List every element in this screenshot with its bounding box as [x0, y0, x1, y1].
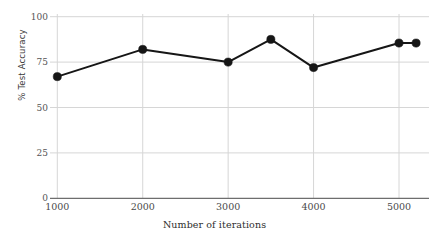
x-tick-label-5000: 5000	[369, 201, 429, 212]
line-chart: 0255075100 10002000300040005000 % Test A…	[0, 0, 429, 236]
horizontal-gridlines	[50, 17, 429, 153]
series-line	[57, 39, 416, 76]
y-tick-label: 25	[14, 148, 48, 158]
y-axis-title: % Test Accuracy	[17, 0, 27, 135]
data-point	[267, 35, 275, 43]
x-tick-label-1000: 1000	[27, 201, 87, 212]
plot-area: 0255075100 10002000300040005000	[0, 0, 429, 236]
data-point	[53, 73, 61, 81]
vertical-gridlines	[57, 14, 399, 198]
data-point	[412, 39, 420, 47]
x-axis-title: Number of iterations	[0, 219, 429, 230]
data-point	[309, 63, 317, 71]
data-point	[139, 45, 147, 53]
x-tick-label-3000: 3000	[198, 201, 258, 212]
series-path	[57, 39, 416, 76]
x-tick-label-4000: 4000	[284, 201, 344, 212]
x-tick-label-2000: 2000	[113, 201, 173, 212]
data-point	[395, 39, 403, 47]
data-point	[224, 58, 232, 66]
